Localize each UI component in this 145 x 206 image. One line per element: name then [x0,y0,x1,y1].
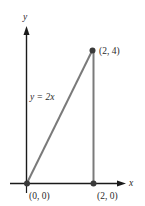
point-2-0 [91,181,97,187]
triangle-diagram: y x (2, 4) y = 2x (0, 0) (2, 0) [0,0,145,206]
x-axis-arrow-icon [117,181,126,187]
point-origin-label: (0, 0) [29,191,50,202]
point-2-4 [90,48,96,54]
y-axis-arrow-icon [24,26,30,35]
line-equation-label: y = 2x [29,92,55,102]
y-axis-label: y [22,12,28,22]
point-2-0-label: (2, 0) [97,191,118,202]
line-y-equals-2x [27,51,92,183]
x-axis-label: x [128,178,134,188]
point-2-4-label: (2, 4) [99,46,120,57]
point-origin [24,181,30,187]
